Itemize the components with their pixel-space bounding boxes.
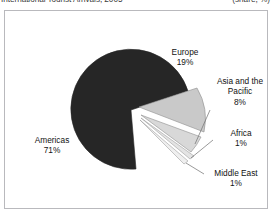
pie-label-asia-and-the-pacific: Asia and the Pacific 8% (207, 76, 273, 107)
pie-label-africa-name: Africa (215, 128, 267, 138)
page-title: International Tourist Arrivals, 2005 (1, 0, 122, 4)
pie-label-americas-value: 71% (21, 145, 83, 155)
chart-header: International Tourist Arrivals, 2005 (sh… (0, 0, 274, 9)
pie-label-africa-value: 1% (215, 138, 267, 148)
pie-label-europe-name: Europe (157, 47, 213, 57)
pie-label-africa: Africa 1% (215, 128, 267, 149)
pie-label-europe-value: 19% (157, 57, 213, 67)
leader-line-middle-east (186, 163, 204, 174)
chart-units-label: (share, %) (232, 0, 270, 4)
pie-label-middle-east: Middle East 1% (203, 168, 269, 189)
pie-label-middle-east-name: Middle East (203, 168, 269, 178)
pie-label-asia-value: 8% (207, 97, 273, 107)
pie-label-americas-name: Americas (21, 135, 83, 145)
pie-label-asia-name-line2: Pacific (207, 86, 273, 96)
pie-label-asia-name-line1: Asia and the (207, 76, 273, 86)
chart-plot-area: Europe 19% Asia and the Pacific 8% Afric… (4, 10, 268, 209)
pie-label-americas: Americas 71% (21, 135, 83, 156)
pie-label-middle-east-value: 1% (203, 178, 269, 188)
pie-label-europe: Europe 19% (157, 47, 213, 68)
